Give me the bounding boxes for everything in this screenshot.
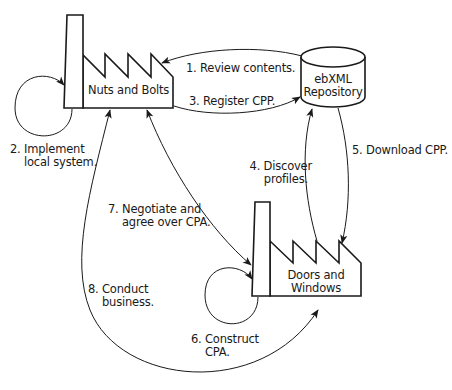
node-label-doors-and-windows: Doors and Windows — [272, 269, 360, 295]
doors-label-line2: Windows — [272, 282, 360, 295]
node-label-nuts-and-bolts: Nuts and Bolts — [88, 84, 168, 97]
step-2-line2: local system. — [10, 156, 97, 169]
step-1-text: 1. Review contents. — [186, 61, 295, 75]
step-3-text: 3. Register CPP. — [189, 94, 275, 108]
step-5-text: 5. Download CPP. — [352, 143, 448, 157]
step-8-line2: business. — [88, 296, 154, 309]
node-label-ebxml-repository: ebXML Repository — [301, 73, 365, 99]
nuts-and-bolts-label: Nuts and Bolts — [88, 83, 169, 97]
step-5-label: 5. Download CPP. — [352, 144, 448, 157]
step-4-line2: profiles. — [242, 173, 312, 186]
step-3-label: 3. Register CPP. — [189, 95, 275, 108]
step-1-label: 1. Review contents. — [186, 62, 295, 75]
repository-label-line2: Repository — [301, 86, 365, 99]
edge-negotiate-cpa — [147, 110, 251, 265]
step-7-label: 7. Negotiate and agree over CPA. — [108, 203, 210, 229]
edge-download-cpp — [338, 108, 348, 243]
step-6-line2: CPA. — [191, 346, 259, 359]
step-8-label: 8. Conduct business. — [88, 283, 154, 309]
step-2-label: 2. Implement local system. — [10, 143, 97, 169]
edge-construct-cpa — [205, 268, 258, 324]
step-7-line2: agree over CPA. — [108, 216, 210, 229]
step-6-label: 6. Construct CPA. — [191, 333, 259, 359]
step-4-label: 4. Discover profiles. — [242, 160, 312, 186]
